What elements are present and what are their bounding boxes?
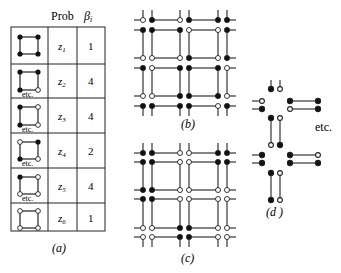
empty-site xyxy=(178,56,183,61)
prob-z1: z1 xyxy=(57,40,66,54)
empty-site xyxy=(187,151,192,156)
empty-site xyxy=(150,66,155,71)
empty-site xyxy=(216,56,221,61)
occupied-site xyxy=(215,17,220,22)
caption-a: (a) xyxy=(52,241,66,255)
prob-z3: z3 xyxy=(57,110,66,124)
occupied-site xyxy=(224,27,229,32)
config-z4-icon: etc. xyxy=(17,139,40,168)
occupied-site xyxy=(149,150,154,155)
config-z6-icon xyxy=(18,209,41,231)
empty-site xyxy=(225,66,230,71)
beta-4: 2 xyxy=(88,145,94,157)
occupied-site xyxy=(140,27,145,32)
config-z2-icon: etc. xyxy=(17,69,40,99)
panel-c-lattice xyxy=(134,143,236,247)
header-prob: Prob xyxy=(51,9,74,23)
panel-d-fragments xyxy=(252,80,321,203)
beta-6: 1 xyxy=(88,212,94,224)
occupied-site xyxy=(186,17,191,22)
occupied-site xyxy=(215,65,220,70)
occupied-site xyxy=(149,196,154,201)
occupied-site xyxy=(140,150,145,155)
caption-d: (d ) xyxy=(266,205,283,219)
beta-5: 4 xyxy=(88,180,94,192)
occupied-site xyxy=(149,103,154,108)
config-z5-icon: etc. xyxy=(17,174,40,203)
empty-site xyxy=(150,94,155,99)
occupied-site xyxy=(149,17,154,22)
empty-site xyxy=(141,235,146,240)
etc-label-d: etc. xyxy=(315,120,332,134)
occupied-site xyxy=(224,103,229,108)
empty-site xyxy=(187,28,192,33)
occupied-site xyxy=(149,187,154,192)
empty-site xyxy=(187,197,192,202)
empty-site xyxy=(225,94,230,99)
beta-3: 4 xyxy=(88,110,94,122)
empty-site xyxy=(178,197,183,202)
panel-b-lattice xyxy=(134,10,236,116)
occupied-site xyxy=(177,225,182,230)
occupied-site xyxy=(186,103,191,108)
occupied-site xyxy=(215,93,220,98)
empty-site xyxy=(216,188,221,193)
empty-site xyxy=(216,197,221,202)
occupied-site xyxy=(186,55,191,60)
config-z3-icon: etc. xyxy=(17,104,40,134)
empty-site xyxy=(178,188,183,193)
etc-label: etc. xyxy=(22,159,33,168)
empty-site xyxy=(225,188,230,193)
empty-site xyxy=(141,226,146,231)
occupied-site xyxy=(186,93,191,98)
empty-site xyxy=(141,94,146,99)
occupied-site xyxy=(177,234,182,239)
empty-site xyxy=(187,160,192,165)
config-z1-icon xyxy=(17,34,40,56)
empty-site xyxy=(216,104,221,109)
empty-site xyxy=(187,188,192,193)
occupied-site xyxy=(140,159,145,164)
empty-site xyxy=(216,235,221,240)
panel-a-table: Prob βi etc. xyxy=(11,9,105,255)
occupied-site xyxy=(140,103,145,108)
prob-z4: z4 xyxy=(57,145,66,159)
occupied-site xyxy=(186,65,191,70)
empty-site xyxy=(141,18,146,23)
occupied-site xyxy=(140,65,145,70)
empty-site xyxy=(216,28,221,33)
beta-2: 4 xyxy=(88,75,94,87)
occupied-site xyxy=(140,187,145,192)
occupied-site xyxy=(224,55,229,60)
occupied-site xyxy=(224,150,229,155)
occupied-site xyxy=(149,159,154,164)
empty-site xyxy=(216,226,221,231)
caption-b: (b) xyxy=(181,117,195,131)
occupied-site xyxy=(224,17,229,22)
occupied-site xyxy=(177,103,182,108)
etc-label: etc. xyxy=(22,194,33,203)
empty-site xyxy=(178,160,183,165)
occupied-site xyxy=(186,234,191,239)
prob-z2: z2 xyxy=(57,75,66,89)
occupied-site xyxy=(224,159,229,164)
empty-site xyxy=(150,56,155,61)
occupied-site xyxy=(177,27,182,32)
caption-c: (c) xyxy=(181,251,194,265)
occupied-site xyxy=(186,225,191,230)
prob-z5: z5 xyxy=(57,180,66,194)
etc-label: etc. xyxy=(22,90,33,99)
prob-z6: z6 xyxy=(57,212,66,226)
occupied-site xyxy=(215,150,220,155)
etc-label: etc. xyxy=(22,125,33,134)
empty-site xyxy=(225,197,230,202)
empty-site xyxy=(178,18,183,23)
occupied-site xyxy=(149,27,154,32)
empty-site xyxy=(225,226,230,231)
header-beta: βi xyxy=(83,9,92,24)
occupied-site xyxy=(140,196,145,201)
occupied-site xyxy=(177,65,182,70)
beta-1: 1 xyxy=(88,40,94,52)
empty-site xyxy=(150,235,155,240)
figure-diagram: Prob βi etc. xyxy=(0,0,341,273)
